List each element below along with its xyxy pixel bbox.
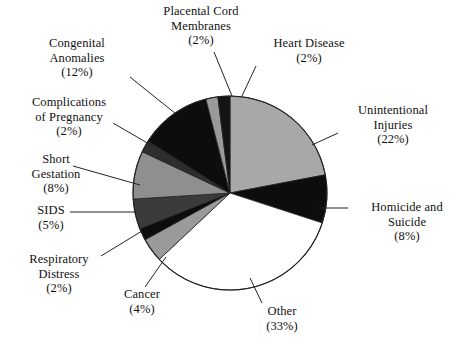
slice-label-line2: Suicide: [352, 215, 462, 230]
slice-label-line2: Distress: [6, 267, 112, 282]
slice-label-percent: (2%): [6, 281, 112, 296]
slice-label-congenital-anomalies: Congenital Anomalies (12%): [22, 36, 132, 80]
leader-line-congenital: [130, 77, 176, 114]
slice-label-line1: Other: [240, 304, 324, 319]
slice-label-respiratory-distress: Respiratory Distress (2%): [6, 252, 112, 296]
slice-label-other: Other (33%): [240, 304, 324, 333]
slice-label-percent: (2%): [250, 51, 368, 66]
slice-label-percent: (22%): [330, 132, 456, 147]
slice-label-line1: SIDS: [8, 203, 94, 218]
slice-label-percent: (2%): [142, 33, 260, 48]
leader-line-heart: [242, 66, 256, 96]
slice-label-placental-cord-membranes: Placental Cord Membranes (2%): [142, 4, 260, 48]
slice-label-line1: Heart Disease: [250, 36, 368, 51]
slice-label-short-gestation: Short Gestation (8%): [6, 152, 106, 196]
slice-label-unintentional-injuries: Unintentional Injuries (22%): [330, 103, 456, 147]
leader-line-cancer: [145, 257, 166, 287]
slice-label-line2: Injuries: [330, 118, 456, 133]
slice-label-line1: Cancer: [100, 287, 184, 302]
slice-label-percent: (2%): [8, 124, 130, 139]
slice-label-heart-disease: Heart Disease (2%): [250, 36, 368, 65]
slice-label-line1: Placental Cord: [142, 4, 260, 19]
slice-label-percent: (5%): [8, 218, 94, 233]
slice-label-percent: (33%): [240, 319, 324, 334]
slice-label-line1: Respiratory: [6, 252, 112, 267]
pie-slices-group: [133, 96, 327, 290]
slice-label-line2: Membranes: [142, 19, 260, 34]
slice-label-percent: (12%): [22, 65, 132, 80]
slice-label-homicide-and-suicide: Homicide and Suicide (8%): [352, 200, 462, 244]
slice-label-cancer: Cancer (4%): [100, 287, 184, 316]
slice-label-line2: of Pregnancy: [8, 110, 130, 125]
slice-label-percent: (8%): [352, 229, 462, 244]
slice-label-line2: Gestation: [6, 167, 106, 182]
slice-label-complications-of-pregnancy: Complications of Pregnancy (2%): [8, 95, 130, 139]
leader-line-placental: [214, 52, 232, 96]
slice-label-line1: Complications: [8, 95, 130, 110]
slice-label-sids: SIDS (5%): [8, 203, 94, 232]
slice-label-percent: (4%): [100, 302, 184, 317]
slice-label-percent: (8%): [6, 181, 106, 196]
pie-chart-figure: Placental Cord Membranes (2%) Heart Dise…: [0, 0, 462, 360]
slice-label-line1: Homicide and: [352, 200, 462, 215]
slice-label-line1: Short: [6, 152, 106, 167]
slice-label-line1: Unintentional: [330, 103, 456, 118]
slice-label-line2: Anomalies: [22, 51, 132, 66]
slice-label-line1: Congenital: [22, 36, 132, 51]
